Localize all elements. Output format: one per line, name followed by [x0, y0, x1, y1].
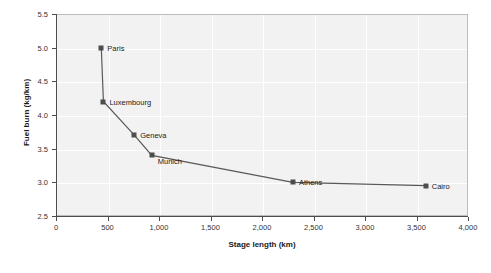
data-point-label: Cairo	[432, 181, 450, 190]
x-axis-tick	[262, 217, 263, 221]
x-axis-tick	[365, 217, 366, 221]
gridline-vertical	[366, 15, 367, 215]
y-axis-tick	[52, 14, 56, 15]
x-axis-tick	[159, 217, 160, 221]
data-point-label: Geneva	[140, 131, 166, 140]
y-axis-tick	[52, 81, 56, 82]
x-axis-tick	[108, 217, 109, 221]
gridline-horizontal	[57, 82, 467, 83]
gridline-horizontal	[57, 183, 467, 184]
y-axis-tick-label: 5.0	[28, 43, 48, 52]
x-axis-tick-label: 2,500	[304, 223, 323, 232]
x-axis-tick-label: 3,500	[407, 223, 426, 232]
y-axis-title: Fuel burn (kg/km)	[22, 43, 31, 183]
data-point	[99, 45, 104, 50]
x-axis-tick	[468, 217, 469, 221]
y-axis-tick	[52, 182, 56, 183]
y-axis-tick-label: 5.5	[28, 10, 48, 19]
gridline-vertical	[263, 15, 264, 215]
y-axis-tick	[52, 149, 56, 150]
y-axis-tick-label: 2.5	[28, 212, 48, 221]
x-axis-tick-label: 500	[101, 223, 114, 232]
x-axis-tick	[211, 217, 212, 221]
data-point-label: Athens	[299, 178, 322, 187]
y-axis-tick-label: 4.5	[28, 77, 48, 86]
data-point-label: Paris	[107, 43, 124, 52]
data-point	[132, 133, 137, 138]
y-axis-tick-label: 4.0	[28, 111, 48, 120]
data-point-label: Luxembourg	[109, 97, 151, 106]
y-axis-line	[56, 14, 57, 216]
data-point	[149, 153, 154, 158]
gridline-horizontal	[57, 150, 467, 151]
x-axis-tick-label: 1,000	[150, 223, 169, 232]
gridline-vertical	[212, 15, 213, 215]
x-axis-title: Stage length (km)	[56, 240, 468, 249]
gridline-vertical	[418, 15, 419, 215]
x-axis-tick-label: 1,500	[201, 223, 220, 232]
data-point	[101, 99, 106, 104]
data-point-label: Munich	[158, 157, 182, 166]
x-axis-tick-label: 4,000	[459, 223, 478, 232]
y-axis-tick	[52, 216, 56, 217]
x-axis-tick	[314, 217, 315, 221]
chart-container: 05001,0001,5002,0002,5003,0003,5004,0002…	[0, 0, 491, 273]
y-axis-tick	[52, 48, 56, 49]
data-point	[290, 180, 295, 185]
x-axis-tick	[56, 217, 57, 221]
y-axis-tick	[52, 115, 56, 116]
x-axis-tick-label: 2,000	[253, 223, 272, 232]
x-axis-tick-label: 3,000	[356, 223, 375, 232]
x-axis-tick-label: 0	[54, 223, 58, 232]
gridline-horizontal	[57, 116, 467, 117]
y-axis-tick-label: 3.5	[28, 144, 48, 153]
data-point	[423, 183, 428, 188]
y-axis-tick-label: 3.0	[28, 178, 48, 187]
x-axis-tick	[417, 217, 418, 221]
gridline-vertical	[160, 15, 161, 215]
